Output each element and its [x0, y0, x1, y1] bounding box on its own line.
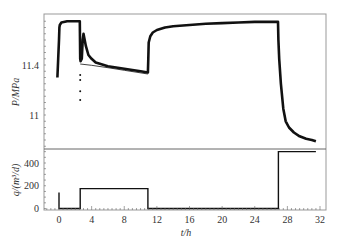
pressure-envelope-line — [80, 64, 148, 74]
xtick-20: 20 — [217, 214, 227, 225]
bottom-ytick-400: 400 — [24, 158, 39, 169]
outlier-point — [79, 90, 81, 92]
bottom-ytick-0: 0 — [34, 203, 39, 214]
xtick-4: 4 — [89, 214, 94, 225]
rate-plot — [59, 152, 316, 209]
chart: 11.4 11 P/MPa 400 200 0 q/(m³/d) 0 4 8 1… — [0, 0, 340, 245]
xtick-0: 0 — [57, 214, 62, 225]
xtick-12: 12 — [152, 214, 162, 225]
outlier-point — [79, 99, 81, 101]
x-axis-title: t/h — [181, 227, 192, 238]
top-y-axis-title: P/MPa — [10, 78, 21, 107]
outlier-point — [79, 79, 81, 81]
xtick-8: 8 — [122, 214, 127, 225]
pressure-line — [57, 21, 316, 141]
outlier-point — [79, 74, 81, 76]
bottom-ytick-200: 200 — [24, 180, 39, 191]
bottom-y-axis-title: q/(m³/d) — [10, 163, 22, 196]
xtick-16: 16 — [185, 214, 195, 225]
xtick-32: 32 — [315, 214, 325, 225]
top-ytick-11: 11 — [29, 110, 39, 121]
xtick-24: 24 — [250, 214, 260, 225]
xtick-28: 28 — [282, 214, 292, 225]
pressure-plot — [57, 21, 316, 141]
rate-line — [59, 152, 316, 209]
top-ytick-11.4: 11.4 — [22, 60, 39, 71]
x-tick-labels: 0 4 8 12 16 20 24 28 32 — [57, 214, 326, 225]
